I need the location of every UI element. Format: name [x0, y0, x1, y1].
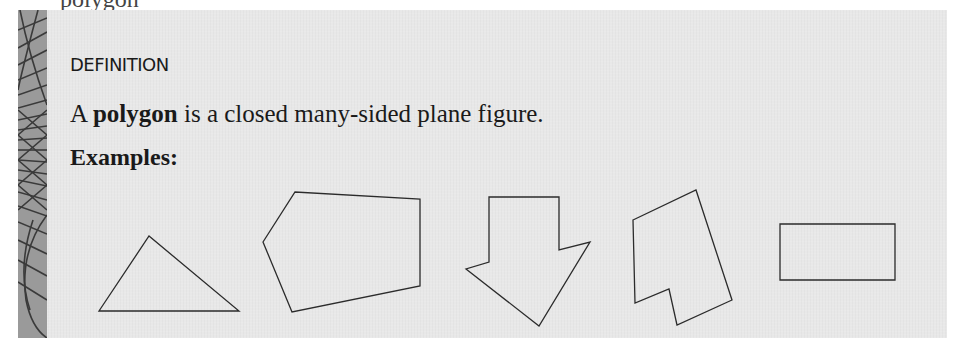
rectangle-shape	[780, 224, 895, 280]
polygon-examples	[0, 0, 956, 352]
arrow-shape	[466, 197, 590, 326]
pentagon-shape	[263, 192, 420, 312]
triangle-shape	[99, 236, 239, 311]
irregular-hexagon-shape	[633, 190, 732, 325]
